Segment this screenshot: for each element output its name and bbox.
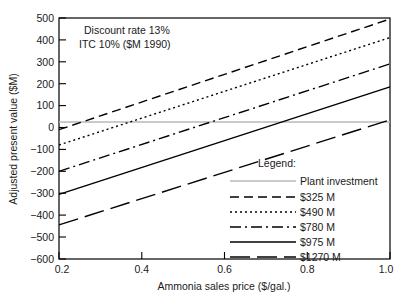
x-tick-label: 0.6	[217, 263, 232, 275]
y-axis-title: Adjusted present value ($M)	[7, 73, 19, 204]
y-tick-label: −200	[30, 165, 54, 177]
x-tick-label: 1.0	[379, 263, 394, 275]
y-tick-label: −300	[30, 187, 54, 199]
apv-line-chart: 500 400 300 200 100 0 −100 −200 −300 −40…	[0, 0, 407, 301]
x-tick-label: 0.8	[300, 263, 315, 275]
x-tick-label: 0.4	[134, 263, 149, 275]
annotation-discount-rate: Discount rate 13%	[84, 24, 170, 36]
x-axis-title: Ammonia sales price ($/gal.)	[157, 280, 290, 292]
y-tick-label: 300	[36, 56, 54, 68]
y-tick-label: 400	[36, 34, 54, 46]
y-tick-label: −100	[30, 143, 54, 155]
annotation-itc: ITC 10% ($M 1990)	[79, 38, 171, 50]
y-tick-label: −600	[30, 253, 54, 265]
y-tick-label: −400	[30, 209, 54, 221]
legend-title: Legend:	[258, 157, 296, 169]
y-tick-label: −500	[30, 231, 54, 243]
y-tick-label: 500	[36, 12, 54, 24]
legend-label-780m: $780 M	[300, 221, 335, 233]
y-tick-label: 100	[36, 99, 54, 111]
x-tick-label: 0.2	[55, 263, 70, 275]
y-tick-label: 0	[48, 121, 54, 133]
legend-label-975m: $975 M	[300, 236, 335, 248]
legend-label-1270m: $1270 M	[300, 251, 341, 263]
legend-label-490m: $490 M	[300, 206, 335, 218]
legend-label-plant-investment: Plant investment	[300, 175, 378, 187]
chart-figure: 500 400 300 200 100 0 −100 −200 −300 −40…	[0, 0, 407, 301]
legend-label-325m: $325 M	[300, 191, 335, 203]
chart-background	[0, 0, 407, 301]
y-tick-label: 200	[36, 78, 54, 90]
